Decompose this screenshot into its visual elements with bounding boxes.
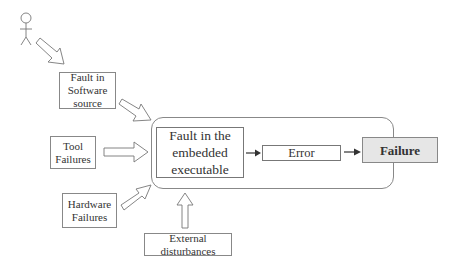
box-fault-embedded: Fault in the embedded executable <box>156 127 244 178</box>
arrow-software-to-fault <box>119 99 151 121</box>
box-failure: Failure <box>362 137 438 163</box>
box-external-disturbances: External disturbances <box>144 233 232 256</box>
box-tool-failures: Tool Failures <box>50 136 96 169</box>
hardware-failures-label: Hardware Failures <box>67 198 112 224</box>
arrow-actor-to-software <box>36 38 64 64</box>
fault-embedded-label: Fault in the embedded executable <box>163 127 237 178</box>
box-error: Error <box>262 145 341 161</box>
arrow-hardware-to-fault <box>121 185 151 210</box>
error-label: Error <box>288 145 314 162</box>
box-hardware-failures: Hardware Failures <box>62 193 117 228</box>
stick-figure-icon <box>20 13 32 45</box>
software-fault-label: Fault in Software source <box>64 71 111 110</box>
arrow-tool-to-fault <box>104 142 148 162</box>
failure-label: Failure <box>380 144 420 157</box>
tool-failures-label: Tool Failures <box>55 140 90 166</box>
arrow-external-to-fault <box>177 193 193 228</box>
external-disturbances-label: External disturbances <box>145 232 231 258</box>
box-software-fault: Fault in Software source <box>59 72 116 109</box>
